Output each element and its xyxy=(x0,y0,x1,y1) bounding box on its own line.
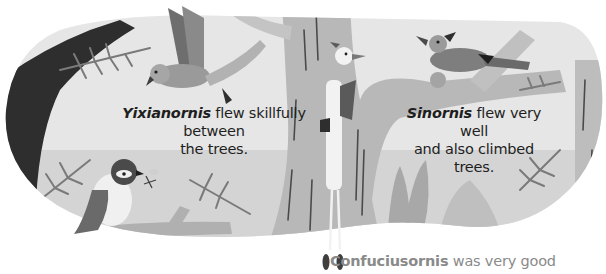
caption-yixianornis-line2: the trees. xyxy=(180,141,248,157)
caption-confuciusornis-name: Confuciusornis xyxy=(330,253,448,269)
caption-sinornis-name: Sinornis xyxy=(407,105,472,121)
caption-confuciusornis: Confuciusornis was very good xyxy=(330,252,606,270)
caption-sinornis-line1: flew very well xyxy=(460,105,541,139)
caption-confuciusornis-text: was very good xyxy=(448,253,556,269)
caption-sinornis: Sinornis flew very well and also climbed… xyxy=(394,104,554,176)
caption-sinornis-line2: and also climbed trees. xyxy=(414,141,534,175)
caption-yixianornis: Yixianornis flew skillfully between the … xyxy=(114,104,314,158)
caption-yixianornis-name: Yixianornis xyxy=(122,105,211,121)
